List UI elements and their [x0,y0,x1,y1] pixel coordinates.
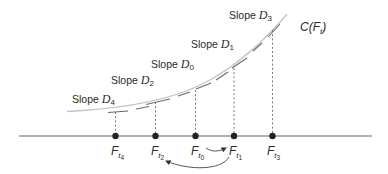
slope-word: Slope [191,38,218,50]
tangent-d4 [108,111,128,113]
slope-sub: 1 [229,43,233,52]
axis-label-ft1: Ft1 [229,145,242,162]
curve-label: C(Ft) [300,21,326,36]
slope-word: Slope [72,93,99,105]
axis-label-ft4: Ft4 [111,145,124,162]
axis-label-subsub: 2 [161,154,165,161]
slope-label-d1: Slope D1 [191,38,234,52]
slope-word: Slope [111,74,138,86]
dot-ft3 [269,133,275,139]
slope-sub: 3 [267,14,271,23]
slope-sub: 0 [189,63,193,72]
curve-label-var: F [313,20,320,34]
axis-label-subsub: 3 [277,154,281,161]
axis-label-subsub: 0 [201,154,205,161]
dot-ft2 [152,133,158,139]
tangent-d3b [268,24,280,37]
dot-ft4 [112,133,118,139]
axis-label-ft3: Ft3 [267,145,280,162]
axis-label-ft0: Ft0 [191,145,204,162]
axis-label-subsub: 1 [239,154,243,161]
dot-ft0 [192,133,198,139]
curve-label-suffix: ) [322,20,326,34]
slope-sub: 2 [149,79,153,88]
slope-label-d3: Slope D3 [229,9,272,23]
slope-sub: 4 [110,98,114,107]
slope-word: Slope [151,58,178,70]
dot-ft1 [231,133,237,139]
slope-label-d0: Slope D0 [151,58,194,72]
slope-word: Slope [229,9,256,21]
tangent-d4b [136,107,149,110]
axis-label-ft2: Ft2 [151,145,164,162]
slope-label-d2: Slope D2 [111,74,154,88]
slope-label-d4: Slope D4 [72,93,115,107]
axis-label-subsub: 4 [121,154,125,161]
arrow-ft0-to-ft1 [206,148,226,151]
curve-label-prefix: C( [300,20,313,34]
